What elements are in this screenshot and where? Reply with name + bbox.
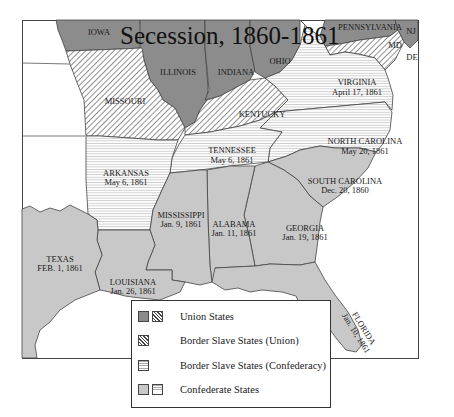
legend-label: Confederate States	[180, 384, 259, 395]
date-virginia: April 17, 1861	[332, 87, 382, 97]
label-illinois: ILLINOIS	[160, 67, 196, 77]
label-north-carolina: NORTH CAROLINA	[328, 136, 404, 146]
legend-item-confederate: Confederate States	[138, 382, 259, 396]
swatch-horizontal-hatch-icon	[138, 360, 149, 371]
date-georgia: Jan. 19, 1861	[282, 232, 327, 242]
swatch-solid-dark-icon	[138, 311, 149, 322]
label-new-jersey: NJ	[406, 26, 416, 36]
legend-label: Border Slave States (Confederacy)	[180, 360, 326, 371]
legend-item-border-union: Border Slave States (Union)	[138, 333, 299, 347]
date-north-carolina: May 20, 1861	[341, 146, 388, 156]
label-kentucky: KENTUCKY	[239, 109, 286, 119]
date-south-carolina: Dec. 20, 1860	[321, 185, 369, 195]
date-texas: FEB. 1, 1861	[37, 263, 82, 273]
map-legend: Union States Border Slave States (Union)…	[131, 300, 331, 408]
swatch-diagonal-hatch-icon	[152, 311, 163, 322]
legend-item-union: Union States	[138, 309, 234, 323]
legend-item-border-confederacy: Border Slave States (Confederacy)	[138, 358, 326, 372]
map-title: Secession, 1860-1861	[120, 22, 339, 49]
label-indiana: INDIANA	[218, 67, 255, 77]
date-louisiana: Jan. 26, 1861	[110, 286, 155, 296]
legend-label: Border Slave States (Union)	[180, 335, 299, 346]
date-alabama: Jan. 11, 1861	[211, 228, 256, 238]
date-mississippi: Jan. 9, 1861	[160, 219, 201, 229]
legend-label: Union States	[180, 311, 234, 322]
label-delaware: DE	[406, 52, 417, 62]
label-tennessee: TENNESSEE	[208, 145, 256, 155]
label-pennsylvania: PENNSYLVANIA	[338, 22, 403, 32]
swatch-solid-light-icon	[138, 384, 149, 395]
swatch-diagonal-hatch-icon	[138, 335, 149, 346]
label-maryland: MD	[388, 40, 402, 50]
label-virginia: VIRGINIA	[338, 77, 378, 87]
swatch-horizontal-hatch-icon	[152, 384, 163, 395]
date-tennessee: May 6, 1861	[210, 155, 253, 165]
label-missouri: MISSOURI	[105, 96, 146, 106]
date-arkansas: May 6, 1861	[104, 177, 147, 187]
label-ohio: OHIO	[269, 56, 290, 66]
label-iowa: IOWA	[88, 27, 111, 37]
